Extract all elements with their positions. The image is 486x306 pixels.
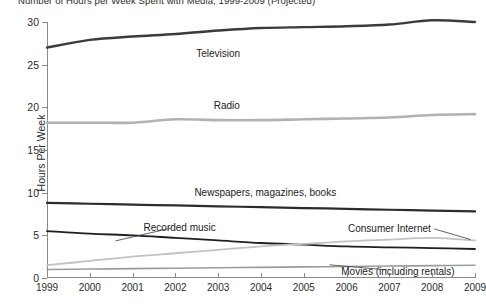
series-line-newspapers-magazines-books [47,203,475,212]
plot-area: 051015202530 199920002001200220032004200… [47,22,475,278]
x-axis-tick-label: 2007 [378,282,400,293]
series-label-recorded-music: Recorded music [144,221,216,232]
y-axis-tick [42,278,47,279]
x-axis-tick [475,273,476,278]
series-label-consumer-internet: Consumer Internet [348,222,431,233]
series-label-newspapers-magazines-books: Newspapers, magazines, books [194,186,336,197]
x-axis-tick-label: 2003 [207,282,229,293]
y-axis-tick-label: 5 [33,229,39,241]
y-axis-tick-label: 15 [27,144,39,156]
x-axis-tick-label: 2001 [121,282,143,293]
y-axis-tick-label: 30 [27,16,39,28]
series-line-consumer-internet [47,238,475,265]
chart-title: Number of Hours per Week Spent with Medi… [18,0,315,6]
x-axis-tick-label: 2000 [79,282,101,293]
series-line-television [47,20,475,47]
series-layer [47,22,475,278]
y-axis-tick-label: 10 [27,187,39,199]
x-axis-tick-label: 2002 [164,282,186,293]
x-axis-tick-label: 1999 [36,282,58,293]
y-axis-tick-label: 20 [27,101,39,113]
x-axis-tick-label: 2008 [421,282,443,293]
x-axis-tick-label: 2004 [250,282,272,293]
series-label-television: Television [196,47,240,58]
series-label-radio: Radio [214,99,240,110]
x-axis-tick-label: 2005 [293,282,315,293]
x-axis-tick-label: 2006 [335,282,357,293]
x-axis-tick-label: 2009 [464,282,486,293]
series-line-radio [47,114,475,123]
y-axis-tick-label: 25 [27,59,39,71]
series-label-movies-including-rentals: Movies (including rentals) [341,265,454,276]
